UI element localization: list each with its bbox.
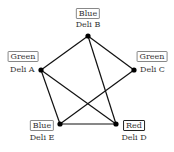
edge-b-d [88,36,116,124]
color-tag-deli-d: Red [123,120,145,131]
nodes [38,33,136,126]
label-deli-d: Deli D [121,133,146,142]
edges [41,36,134,124]
edge-b-c [88,36,134,70]
label-deli-c: Deli C [140,65,165,74]
edge-a-e [41,70,60,124]
node-deli-d [113,121,118,126]
color-tag-deli-e: Blue [30,120,54,131]
node-deli-c [131,67,136,72]
color-tag-deli-a: Green [8,51,39,62]
node-deli-a [38,67,43,72]
node-deli-b [85,33,90,38]
edge-a-b [41,36,88,70]
label-deli-a: Deli A [10,65,35,74]
label-deli-b: Deli B [76,20,101,29]
node-deli-e [57,121,62,126]
edge-a-d [41,70,116,124]
edge-e-c [60,70,134,124]
color-tag-deli-c: Green [137,51,168,62]
color-tag-deli-b: Blue [76,8,100,19]
label-deli-e: Deli E [30,133,55,142]
